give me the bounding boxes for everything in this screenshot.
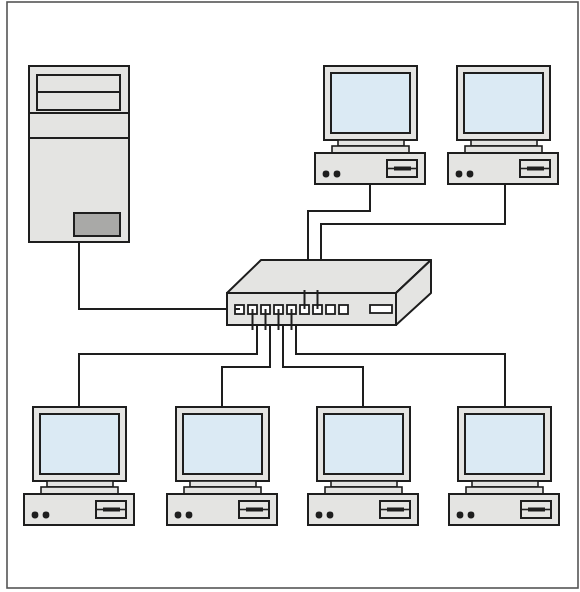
- switch-port-9: [339, 305, 348, 314]
- switch-display: [370, 305, 392, 313]
- workstation-2-icon: [448, 66, 558, 184]
- server-icon: [29, 66, 129, 242]
- workstation-4-icon: [167, 407, 277, 525]
- switch-port-8: [326, 305, 335, 314]
- workstation-6-icon: [449, 407, 559, 525]
- workstation-5-icon: [308, 407, 418, 525]
- workstation-3-icon: [24, 407, 134, 525]
- network-diagram: Star network topology: [0, 0, 580, 592]
- switch-icon: [227, 260, 431, 330]
- workstation-1-icon: [315, 66, 425, 184]
